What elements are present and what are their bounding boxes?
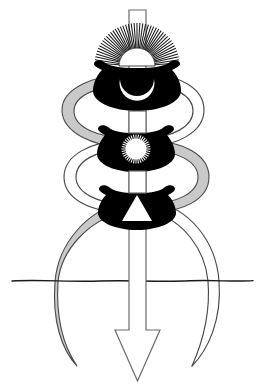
shaft-segment-upper — [129, 111, 146, 133]
star-disc-core — [126, 139, 147, 160]
shaft-segment-middle — [129, 171, 146, 193]
figure-root: Caduceus with three chakra vessels Cresc… — [0, 0, 265, 388]
caduceus-diagram — [0, 0, 265, 388]
